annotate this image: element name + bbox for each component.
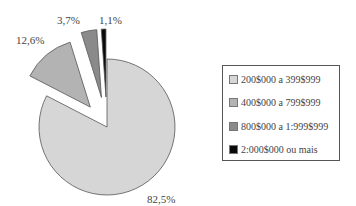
legend-item: 200$000 a 399$999: [229, 73, 320, 85]
legend-swatch-icon: [229, 75, 238, 84]
legend-item: 800$000 a 1:999$999: [229, 120, 328, 132]
legend-label: 400$000 a 799$999: [241, 97, 320, 108]
legend-label: 800$000 a 1:999$999: [241, 121, 328, 132]
legend-swatch-icon: [229, 122, 238, 131]
legend-label: 200$000 a 399$999: [241, 74, 320, 85]
slice-label-12-6: 12,6%: [16, 34, 44, 46]
legend: 200$000 a 399$999 400$000 a 799$999 800$…: [222, 65, 340, 161]
pie-slice: [30, 42, 90, 107]
legend-label: 2:000$000 ou mais: [241, 144, 318, 155]
legend-swatch-icon: [229, 98, 238, 107]
legend-item: 2:000$000 ou mais: [229, 143, 318, 155]
legend-item: 400$000 a 799$999: [229, 96, 320, 108]
pie-slice: [101, 29, 106, 97]
slice-label-3-7: 3,7%: [57, 14, 80, 26]
slice-label-1-1: 1,1%: [99, 14, 122, 26]
legend-swatch-icon: [229, 145, 238, 154]
slice-label-82-5: 82,5%: [147, 193, 175, 205]
